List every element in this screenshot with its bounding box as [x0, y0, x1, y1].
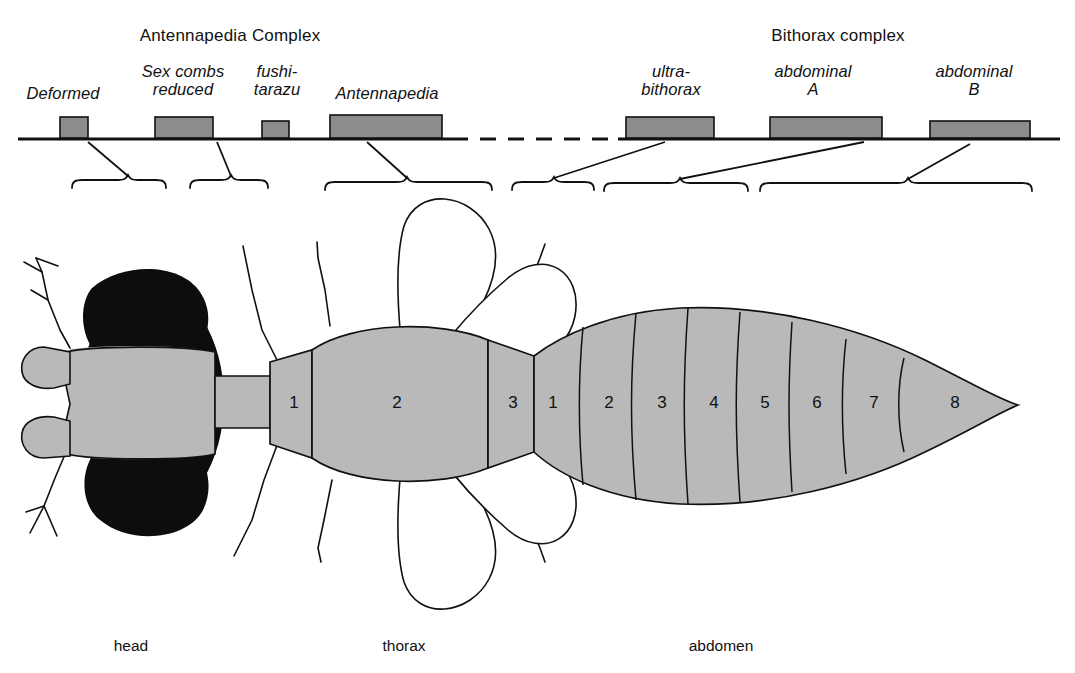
brace-head-anterior [72, 175, 166, 188]
figure-canvas: Antennapedia Complex Bithorax complex De… [0, 0, 1075, 673]
abdomen-segment-number-7: 7 [862, 393, 886, 412]
brace-abdomen-1-4 [604, 178, 748, 191]
abdomen-segment-number-8: 8 [943, 393, 967, 412]
abdomen-segment-number-6: 6 [805, 393, 829, 412]
gene-map-layer [0, 0, 1075, 673]
complex-title-bithorax: Bithorax complex [730, 26, 946, 45]
brace-thorax-1-2 [325, 177, 492, 190]
gene-boxes-group [60, 115, 1030, 138]
brace-head-posterior [190, 175, 268, 188]
gene-box-fushi-tarazu[interactable] [262, 121, 289, 138]
thorax-segment-number-2: 2 [385, 393, 409, 412]
thorax-segment-number-1: 1 [282, 393, 306, 412]
leader-lines-group [88, 142, 970, 179]
abdomen-segment-number-2: 2 [597, 393, 621, 412]
gene-label-sex-combs-reduced-line2: reduced [153, 80, 213, 98]
leader-abdominal-b [908, 144, 970, 179]
region-label-thorax: thorax [344, 637, 464, 654]
brace-thorax-3 [512, 177, 594, 190]
gene-box-abdominal-b[interactable] [930, 121, 1030, 138]
braces-group [72, 175, 1032, 191]
abdomen-segment-number-4: 4 [702, 393, 726, 412]
gene-box-sex-combs-reduced[interactable] [155, 117, 213, 138]
leader-deformed [88, 142, 128, 176]
gene-label-ultrabithorax-line2: bithorax [641, 80, 701, 98]
region-label-head: head [71, 637, 191, 654]
gene-label-abdominal-a-line2: A [807, 80, 818, 98]
gene-box-antennapedia[interactable] [330, 115, 442, 138]
abdomen-segment-number-3: 3 [650, 393, 674, 412]
gene-label-fushi-tarazu-line2: tarazu [254, 80, 300, 98]
gene-label-ultrabithorax: ultra-bithorax [611, 62, 731, 99]
gene-label-deformed: Deformed [3, 84, 123, 102]
leader-ultrabithorax [554, 142, 665, 178]
gene-box-deformed[interactable] [60, 117, 88, 138]
gene-label-sex-combs-reduced: Sex combsreduced [123, 62, 243, 99]
brace-abdomen-5-8 [760, 178, 1032, 191]
region-label-abdomen: abdomen [656, 637, 786, 654]
gene-label-sex-combs-reduced-line1: Sex combs [142, 62, 225, 80]
leader-sex-combs-reduced [217, 142, 231, 176]
gene-box-ultrabithorax[interactable] [626, 117, 714, 138]
gene-label-abdominal-b-line1: abdominal [935, 62, 1012, 80]
leader-abdominal-a [680, 142, 864, 179]
gene-label-antennapedia: Antennapedia [307, 84, 467, 102]
gene-label-abdominal-a-line1: abdominal [774, 62, 851, 80]
gene-box-abdominal-a[interactable] [770, 117, 882, 138]
thorax-segment-number-3: 3 [501, 393, 525, 412]
abdomen-segment-number-1: 1 [541, 393, 565, 412]
leader-antennapedia [367, 142, 407, 178]
gene-label-fushi-tarazu-line1: fushi- [257, 62, 298, 80]
complex-title-antennapedia: Antennapedia Complex [110, 26, 350, 45]
gene-label-ultrabithorax-line1: ultra- [652, 62, 690, 80]
gene-label-abdominal-a: abdominalA [743, 62, 883, 99]
gene-label-abdominal-b: abdominalB [904, 62, 1044, 99]
gene-label-abdominal-b-line2: B [968, 80, 979, 98]
abdomen-segment-number-5: 5 [753, 393, 777, 412]
